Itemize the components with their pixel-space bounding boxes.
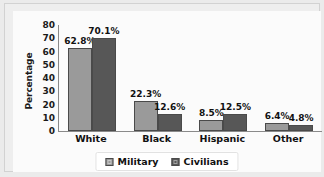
legend-label-civilians: Civilians: [184, 156, 229, 167]
bar-group: 6.4%4.8%: [256, 25, 322, 131]
bar-value-label: 12.6%: [152, 103, 188, 112]
y-axis-tick: 0: [35, 127, 55, 136]
chart-frame: Percentage 80706050403020100 62.8%70.1%2…: [4, 3, 320, 172]
bar-value-label: 4.8%: [283, 114, 319, 123]
bar[interactable]: [92, 38, 116, 131]
bar[interactable]: [199, 120, 223, 131]
bar-group: 22.3%12.6%: [125, 25, 191, 131]
y-axis-tick: 50: [35, 60, 55, 69]
bar[interactable]: [223, 114, 247, 131]
bar[interactable]: [68, 48, 92, 131]
chart-screenshot: Percentage 80706050403020100 62.8%70.1%2…: [0, 0, 324, 177]
bar-group: 62.8%70.1%: [59, 25, 125, 131]
y-axis-tick: 60: [35, 47, 55, 56]
chart-legend: Military Civilians: [95, 152, 238, 171]
bar-value-label: 12.5%: [217, 103, 253, 112]
legend-label-military: Military: [117, 156, 158, 167]
legend-item-military[interactable]: Military: [105, 156, 158, 167]
bar-value-label: 70.1%: [86, 27, 122, 36]
bar-value-label: 22.3%: [128, 90, 164, 99]
bar-group: 8.5%12.5%: [191, 25, 257, 131]
x-axis-category-labels: WhiteBlackHispanicOther: [58, 133, 321, 147]
y-axis-title: Percentage: [22, 41, 36, 121]
x-axis-label: Hispanic: [190, 133, 256, 144]
plot-area: 62.8%70.1%22.3%12.6%8.5%12.5%6.4%4.8%: [58, 25, 322, 132]
bar[interactable]: [265, 123, 289, 131]
x-axis-label: Black: [124, 133, 190, 144]
x-axis-label: Other: [255, 133, 321, 144]
y-axis-tick: 30: [35, 87, 55, 96]
y-axis-tick: 20: [35, 100, 55, 109]
legend-swatch-civilians-icon: [172, 158, 180, 166]
y-axis-tick-labels: 80706050403020100: [35, 25, 55, 131]
bars-container: 62.8%70.1%22.3%12.6%8.5%12.5%6.4%4.8%: [59, 25, 322, 131]
x-axis-label: White: [58, 133, 124, 144]
y-axis-tick: 70: [35, 34, 55, 43]
y-axis-tick: 80: [35, 21, 55, 30]
y-axis-tick: 10: [35, 113, 55, 122]
y-axis-title-text: Percentage: [24, 53, 34, 110]
chart-canvas: Percentage 80706050403020100 62.8%70.1%2…: [13, 11, 321, 172]
bar[interactable]: [158, 114, 182, 131]
legend-swatch-military-icon: [105, 158, 113, 166]
legend-item-civilians[interactable]: Civilians: [172, 156, 229, 167]
bar[interactable]: [289, 125, 313, 131]
y-axis-tick: 40: [35, 74, 55, 83]
